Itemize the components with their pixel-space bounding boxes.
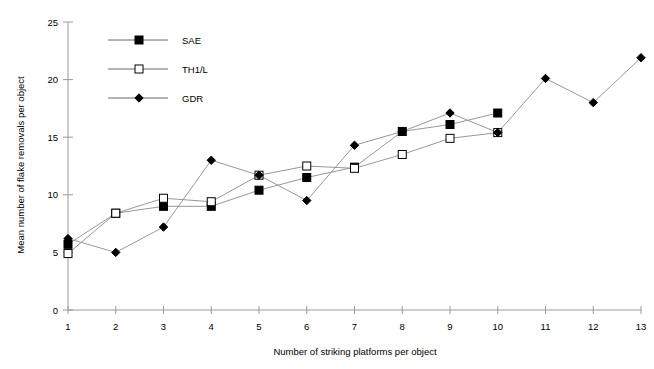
legend-item-gdr[interactable]: GDR [108, 93, 203, 104]
data-point [255, 186, 263, 194]
y-axis-title: Mean number of flake removals per object [15, 76, 26, 254]
legend-item-th1-l[interactable]: TH1/L [108, 64, 208, 75]
y-tick-label: 0 [53, 305, 58, 316]
data-point [112, 209, 120, 217]
x-tick-label: 12 [588, 321, 599, 332]
chart-svg: 0510152025 12345678910111213 Mean number… [0, 0, 654, 369]
y-tick-label: 5 [53, 247, 58, 258]
chart-container: 0510152025 12345678910111213 Mean number… [0, 0, 654, 369]
data-point [398, 150, 406, 158]
data-point [303, 162, 311, 170]
x-axis-title: Number of striking platforms per object [273, 346, 437, 357]
legend-label: TH1/L [182, 64, 208, 75]
y-tick-label: 20 [47, 74, 58, 85]
x-tick-label: 13 [636, 321, 647, 332]
data-point [303, 174, 311, 182]
series-path [68, 133, 498, 254]
data-point [351, 164, 359, 172]
data-point [446, 109, 454, 117]
data-point [64, 250, 72, 258]
x-tick-label: 2 [113, 321, 118, 332]
legend-item-sae[interactable]: SAE [108, 35, 201, 46]
data-point [446, 121, 454, 129]
x-tick-label: 3 [161, 321, 166, 332]
data-point [446, 134, 454, 142]
legend-label: GDR [182, 93, 203, 104]
x-tick-label: 8 [400, 321, 405, 332]
x-tick-label: 10 [492, 321, 503, 332]
series-markers-sae [64, 109, 502, 248]
chart-legend: SAETH1/LGDR [108, 35, 208, 104]
x-tick-label: 11 [541, 321, 551, 332]
x-tick-label: 9 [447, 321, 452, 332]
y-axis-ticks: 0510152025 [47, 17, 73, 316]
series-path [68, 113, 498, 244]
y-tick-label: 15 [47, 132, 58, 143]
data-point [112, 248, 120, 256]
data-point [160, 202, 168, 210]
series-sae [68, 113, 498, 244]
series-path [68, 58, 641, 253]
series-th1-l [68, 133, 498, 254]
data-point [207, 156, 215, 164]
legend-swatch-marker [135, 65, 143, 73]
legend-swatch-marker [135, 94, 143, 102]
x-tick-label: 5 [256, 321, 261, 332]
y-tick-label: 25 [47, 17, 58, 28]
series-markers-th1-l [64, 129, 502, 258]
series-markers-gdr [64, 54, 645, 257]
x-tick-label: 1 [65, 321, 70, 332]
data-point [159, 223, 167, 231]
x-tick-label: 6 [304, 321, 309, 332]
series-gdr [68, 58, 641, 253]
data-point [160, 194, 168, 202]
y-tick-label: 10 [47, 189, 58, 200]
x-tick-label: 4 [209, 321, 214, 332]
legend-label: SAE [182, 35, 201, 46]
x-tick-label: 7 [352, 321, 357, 332]
legend-swatch-marker [135, 36, 143, 44]
data-point [207, 198, 215, 206]
data-point [494, 109, 502, 117]
chart-series-layer [64, 54, 645, 258]
